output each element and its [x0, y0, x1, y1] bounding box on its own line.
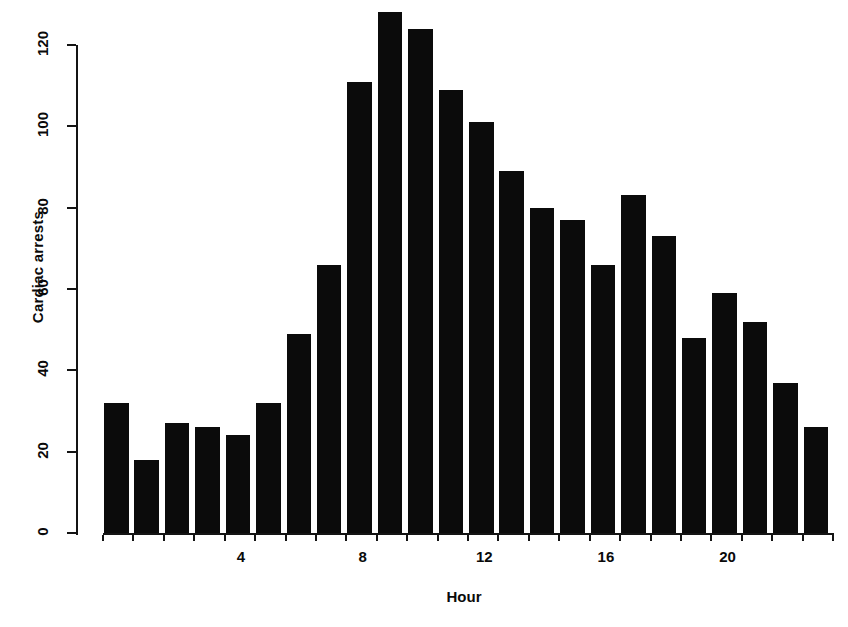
x-axis-minor-tick	[589, 535, 591, 541]
x-axis-tick-label: 4	[221, 548, 261, 565]
x-axis-minor-tick	[771, 535, 773, 541]
bar	[408, 29, 433, 533]
x-axis-minor-tick	[802, 535, 804, 541]
x-axis-minor-tick	[285, 535, 287, 541]
x-axis-minor-tick	[467, 535, 469, 541]
x-axis-title: Hour	[0, 588, 848, 605]
bar	[652, 236, 677, 533]
bar	[378, 12, 403, 533]
x-axis-tick-label: 20	[708, 548, 748, 565]
bar	[439, 90, 464, 533]
x-axis-title-text: Hour	[447, 588, 482, 605]
x-axis-minor-tick	[497, 535, 499, 541]
bar	[499, 171, 524, 533]
bar	[469, 122, 494, 533]
x-axis-minor-tick	[224, 535, 226, 541]
bar	[530, 208, 555, 533]
bar	[256, 403, 281, 533]
bar	[104, 403, 129, 533]
x-axis-minor-tick	[345, 535, 347, 541]
x-axis-minor-tick	[376, 535, 378, 541]
x-axis-minor-tick	[163, 535, 165, 541]
bar	[195, 427, 220, 533]
bar	[560, 220, 585, 533]
bar	[165, 423, 190, 533]
bar	[682, 338, 707, 533]
bar	[743, 322, 768, 533]
bar	[287, 334, 312, 533]
x-axis-minor-tick	[528, 535, 530, 541]
bar	[347, 82, 372, 533]
x-axis-minor-tick	[315, 535, 317, 541]
bar	[804, 427, 829, 533]
bar	[773, 383, 798, 533]
x-axis-minor-tick	[680, 535, 682, 541]
x-axis-minor-tick	[741, 535, 743, 541]
x-axis-minor-tick	[619, 535, 621, 541]
x-axis-minor-tick	[102, 535, 104, 541]
x-axis-minor-tick	[437, 535, 439, 541]
x-axis-minor-tick	[710, 535, 712, 541]
bar	[712, 293, 737, 533]
bar	[226, 435, 251, 533]
bar	[317, 265, 342, 533]
x-axis-tick-label: 12	[464, 548, 504, 565]
x-axis-minor-tick	[254, 535, 256, 541]
x-axis-minor-tick	[406, 535, 408, 541]
x-axis-tick-label: 16	[586, 548, 626, 565]
x-axis-minor-tick	[558, 535, 560, 541]
bar	[621, 195, 646, 533]
bar	[591, 265, 616, 533]
bar-chart-figure: Cardiac arrests 020406080100120 48121620…	[0, 0, 848, 627]
x-axis-minor-tick	[193, 535, 195, 541]
x-axis-minor-tick	[132, 535, 134, 541]
x-axis-minor-tick	[832, 535, 834, 541]
x-axis-minor-tick	[650, 535, 652, 541]
bar	[134, 460, 159, 533]
x-axis-tick-label: 8	[343, 548, 383, 565]
